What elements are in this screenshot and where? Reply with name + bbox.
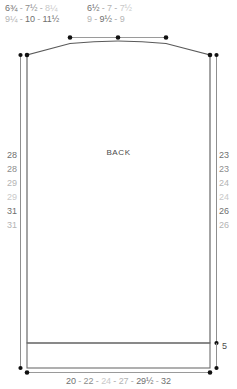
bottom-width-value: 20 <box>66 376 76 386</box>
hem-band <box>27 343 210 368</box>
shoulder-corner-dot-left <box>25 53 30 58</box>
left-dimension-dot-top <box>18 53 22 57</box>
bottom-width-dimension <box>25 370 213 375</box>
left-length-dimension <box>18 53 22 370</box>
bottom-width-value: 24 <box>101 376 111 386</box>
top-dimension-dot-right <box>164 35 169 40</box>
left-length-value: 28 <box>0 162 17 176</box>
garment-schematic: 6¾ - 7½ - 8¼ 9¼ - 10 - 11½ 6½ - 7 - 7½ 9… <box>0 0 237 389</box>
band-height-label: 5 <box>222 341 227 351</box>
shoulder-corner-dot-right <box>208 53 213 58</box>
left-length-value: 29 <box>0 190 17 204</box>
right-length-value: 23 <box>219 162 237 176</box>
left-length-value: 31 <box>0 204 17 218</box>
left-length-values: 28 28 29 29 31 31 <box>0 148 17 232</box>
bottom-width-values: 20 - 22 - 24 - 27 - 29½ - 32 <box>0 376 237 386</box>
right-length-value: 24 <box>219 176 237 190</box>
top-dimension-dot-left <box>68 35 73 40</box>
right-length-value: 26 <box>219 218 237 232</box>
right-length-value: 26 <box>219 204 237 218</box>
top-dimension-dot-center <box>116 35 121 40</box>
right-length-dimension <box>214 53 218 345</box>
right-length-values: 23 23 24 24 26 26 <box>219 148 237 232</box>
band-dimension-dot-bottom <box>214 366 218 370</box>
left-length-value: 31 <box>0 218 17 232</box>
bottom-width-value: 29½ <box>136 376 153 386</box>
right-dimension-dot-top <box>214 53 218 57</box>
body-outline <box>27 41 210 343</box>
bottom-width-value: 27 <box>119 376 129 386</box>
bottom-dimension-dot-left <box>25 370 30 375</box>
bottom-dimension-dot-right <box>208 370 213 375</box>
top-dimension-line <box>68 35 169 40</box>
left-length-value: 29 <box>0 176 17 190</box>
right-length-value: 24 <box>219 190 237 204</box>
hem-band-rect <box>27 343 210 368</box>
body-outline-path <box>27 41 210 343</box>
piece-label: BACK <box>0 148 237 157</box>
bottom-width-value: 32 <box>161 376 171 386</box>
band-height-dimension <box>214 343 218 370</box>
left-dimension-dot-bottom <box>18 366 22 370</box>
schematic-drawing <box>0 0 237 389</box>
bottom-width-value: 22 <box>84 376 94 386</box>
